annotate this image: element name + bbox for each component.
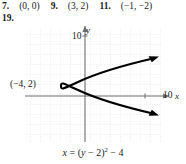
answer-item-9: 9.(3, 2): [51, 0, 89, 13]
answer-value-11: (−1, −2): [121, 1, 152, 11]
equation-caption: x = (y − 2)2 − 4: [0, 146, 186, 158]
answer-item-11: 11.(−1, −2): [99, 0, 152, 13]
answer-key-row: 7.(0, 0)9.(3, 2)11.(−1, −2): [2, 0, 186, 13]
parabola-figure: y x 10 10 (−4, 2) x = (y − 2)2 − 4: [0, 24, 186, 164]
vertex-label: (−4, 2): [10, 79, 36, 89]
y-tick-label-10: 10: [72, 31, 82, 41]
answer-value-9: (3, 2): [68, 1, 89, 11]
equation-exponent: 2: [104, 146, 107, 153]
equation-four: 4: [118, 147, 123, 158]
equation-equals: =: [70, 147, 76, 158]
equation-minus-1: −: [88, 147, 94, 158]
equation-variable: y: [81, 147, 85, 158]
grid-background: [25, 28, 161, 142]
answer-value-7: (0, 0): [19, 1, 40, 11]
figure-page: 7.(0, 0)9.(3, 2)11.(−1, −2) 19.: [0, 0, 186, 164]
answer-number-9: 9.: [51, 1, 58, 11]
answer-number-7: 7.: [2, 1, 9, 11]
y-axis-label: y: [86, 25, 90, 35]
exercise-number: 19.: [2, 12, 14, 24]
answer-number-11: 11.: [99, 1, 110, 11]
x-tick-label-10: 10: [163, 90, 173, 100]
equation-minus-2: −: [110, 147, 116, 158]
equation-lhs: x: [63, 147, 67, 158]
x-axis-label: x: [175, 91, 179, 101]
coordinate-graph: [0, 24, 186, 164]
